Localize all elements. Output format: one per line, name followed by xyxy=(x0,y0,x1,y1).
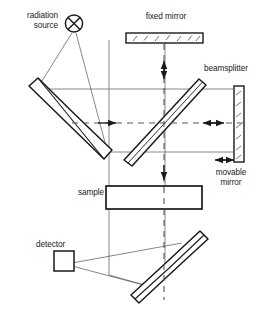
focusing-mirror xyxy=(131,231,208,303)
radiation-source-icon xyxy=(65,15,82,32)
label-radiation-source-line1: radiation xyxy=(6,11,58,21)
movable-mirror xyxy=(234,86,244,162)
fixed-mirror xyxy=(126,33,203,43)
label-movable-mirror: movable mirror xyxy=(202,168,260,188)
collimating-mirror xyxy=(29,78,112,159)
label-detector: detector xyxy=(36,240,90,250)
sample-cell xyxy=(106,186,202,209)
label-movable-mirror-line1: movable xyxy=(202,168,260,178)
label-sample: sample xyxy=(56,188,104,198)
label-radiation-source: radiation source xyxy=(6,11,58,31)
detector xyxy=(54,251,74,271)
optics-schematic xyxy=(0,0,268,315)
interferometer-diagram: radiation source fixed mirror beamsplitt… xyxy=(0,0,268,315)
label-fixed-mirror: fixed mirror xyxy=(130,12,202,22)
label-beamsplitter: beamsplitter xyxy=(204,64,266,74)
label-radiation-source-line2: source xyxy=(6,21,58,31)
label-movable-mirror-line2: mirror xyxy=(202,178,260,188)
